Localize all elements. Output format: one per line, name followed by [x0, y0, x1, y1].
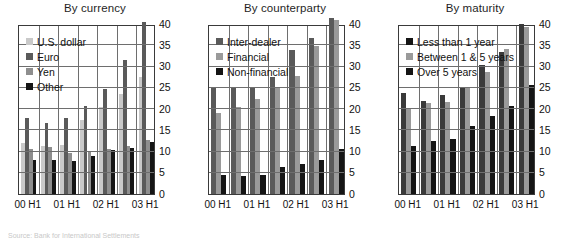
- chart-title: By currency: [0, 2, 190, 14]
- x-axis-tick-label: 00 H1: [391, 199, 425, 210]
- figure-panel-group: By currency 0510152025303540 00 H101 H10…: [0, 0, 570, 238]
- y-axis-labels: 0510152025303540: [349, 25, 371, 195]
- y-axis-tick-label: 35: [539, 40, 551, 51]
- legend-swatch-icon: [26, 38, 33, 45]
- bar: [490, 116, 495, 194]
- legend-label: Over 5 years: [417, 67, 477, 78]
- gridline-vertical: [307, 26, 308, 194]
- x-axis-tick-label: 00 H1: [201, 199, 235, 210]
- legend-swatch-icon: [406, 38, 413, 45]
- legend-item: Non-financial: [216, 62, 288, 75]
- legend-item: Less than 1 year: [406, 32, 514, 45]
- legend-label: Financial: [227, 52, 269, 63]
- bar: [450, 139, 455, 194]
- gridline-vertical: [136, 26, 137, 194]
- y-axis-tick-label: 25: [159, 82, 171, 93]
- y-axis-tick-label: 15: [349, 125, 361, 136]
- gridline-vertical: [117, 26, 118, 194]
- legend-swatch-icon: [26, 68, 33, 75]
- y-axis-tick-label: 0: [539, 189, 545, 200]
- y-axis-tick-label: 0: [349, 189, 355, 200]
- bar: [72, 161, 76, 194]
- y-axis-tick-label: 30: [539, 61, 551, 72]
- bar: [91, 156, 95, 194]
- y-axis-tick-label: 25: [539, 82, 551, 93]
- chart-legend: Less than 1 yearBetween 1 & 5 yearsOver …: [406, 32, 514, 77]
- y-axis-tick-label: 20: [349, 104, 361, 115]
- bar: [529, 85, 534, 194]
- y-axis-tick-label: 10: [539, 146, 551, 157]
- chart-legend: U.S. dollarEuroYenOther: [26, 32, 86, 92]
- x-axis-tick-label: 01 H1: [50, 199, 84, 210]
- y-axis-tick-label: 20: [539, 104, 551, 115]
- x-axis-labels: 00 H101 H102 H103 H1: [18, 199, 155, 213]
- x-axis-labels: 00 H101 H102 H103 H1: [398, 199, 535, 213]
- y-axis-tick-label: 40: [159, 19, 171, 30]
- legend-item: Other: [26, 77, 86, 90]
- legend-label: Euro: [37, 52, 59, 63]
- legend-item: Yen: [26, 62, 86, 75]
- bar: [52, 160, 56, 194]
- x-axis-tick-label: 02 H1: [469, 199, 503, 210]
- x-axis-tick-label: 01 H1: [240, 199, 274, 210]
- legend-item: Financial: [216, 47, 288, 60]
- y-axis-tick-label: 5: [159, 167, 165, 178]
- legend-swatch-icon: [406, 68, 413, 75]
- y-axis-tick-label: 15: [159, 125, 171, 136]
- bar: [411, 146, 416, 194]
- legend-swatch-icon: [216, 38, 223, 45]
- chart-legend: Inter-dealerFinancialNon-financial: [216, 32, 288, 77]
- legend-label: Yen: [37, 67, 55, 78]
- legend-label: Between 1 & 5 years: [417, 52, 514, 63]
- y-axis-tick-label: 20: [159, 104, 171, 115]
- chart-title: By counterparty: [190, 2, 380, 14]
- bar: [300, 164, 305, 194]
- gridline-vertical: [97, 26, 98, 194]
- legend-swatch-icon: [216, 53, 223, 60]
- legend-swatch-icon: [26, 53, 33, 60]
- x-axis-labels: 00 H101 H102 H103 H1: [208, 199, 345, 213]
- bar: [241, 176, 246, 194]
- legend-swatch-icon: [26, 83, 33, 90]
- y-axis-tick-label: 35: [159, 40, 171, 51]
- bar: [33, 160, 37, 194]
- legend-item: Over 5 years: [406, 62, 514, 75]
- legend-label: Other: [37, 82, 63, 93]
- y-axis-tick-label: 40: [349, 19, 361, 30]
- x-axis-tick-label: 01 H1: [430, 199, 464, 210]
- bar: [470, 126, 475, 194]
- bar: [260, 175, 265, 194]
- chart-panel-by-counterparty: By counterparty 0510152025303540 00 H101…: [190, 0, 380, 238]
- x-axis-tick-label: 02 H1: [89, 199, 123, 210]
- y-axis-tick-label: 30: [159, 61, 171, 72]
- x-axis-tick-label: 03 H1: [508, 199, 542, 210]
- y-axis-tick-label: 10: [159, 146, 171, 157]
- y-axis-tick-label: 15: [539, 125, 551, 136]
- y-axis-tick-label: 35: [349, 40, 361, 51]
- chart-panel-by-currency: By currency 0510152025303540 00 H101 H10…: [0, 0, 190, 238]
- legend-label: Inter-dealer: [227, 37, 281, 48]
- y-axis-tick-label: 25: [349, 82, 361, 93]
- x-axis-tick-label: 02 H1: [279, 199, 313, 210]
- gridline-vertical: [516, 26, 517, 194]
- x-axis-tick-label: 00 H1: [11, 199, 45, 210]
- legend-swatch-icon: [406, 53, 413, 60]
- legend-label: Less than 1 year: [417, 37, 495, 48]
- y-axis-tick-label: 40: [539, 19, 551, 30]
- y-axis-tick-label: 5: [349, 167, 355, 178]
- y-axis-labels: 0510152025303540: [539, 25, 561, 195]
- y-axis-tick-label: 10: [349, 146, 361, 157]
- x-axis-tick-label: 03 H1: [318, 199, 352, 210]
- bar: [431, 141, 436, 194]
- y-axis-tick-label: 0: [159, 189, 165, 200]
- bar: [221, 175, 226, 194]
- legend-item: Inter-dealer: [216, 32, 288, 45]
- source-note: Source: Bank for International Settlemen…: [8, 232, 140, 238]
- y-axis-tick-label: 30: [349, 61, 361, 72]
- bar: [319, 160, 324, 194]
- legend-item: Euro: [26, 47, 86, 60]
- legend-item: U.S. dollar: [26, 32, 86, 45]
- x-axis-tick-label: 03 H1: [128, 199, 162, 210]
- gridline-vertical: [326, 26, 327, 194]
- chart-panel-by-maturity: By maturity 0510152025303540 00 H101 H10…: [380, 0, 570, 238]
